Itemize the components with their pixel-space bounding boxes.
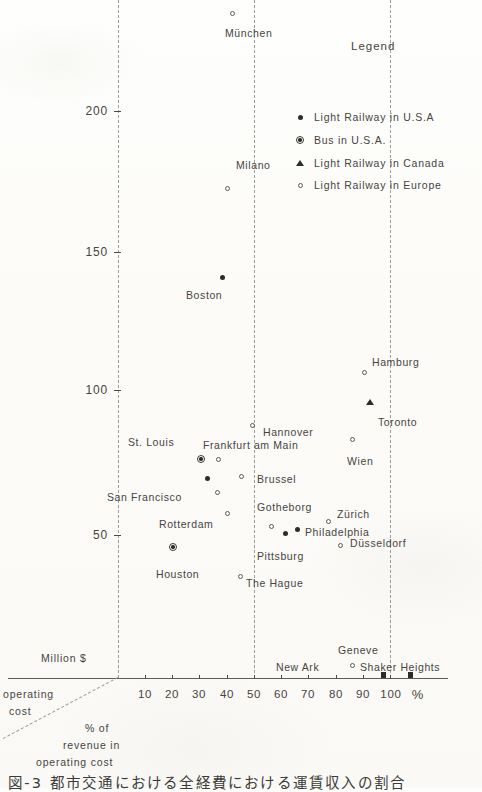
x-tick-label-70: 70 (294, 689, 322, 701)
point-label-hannover: Hannover (263, 427, 313, 438)
point-gotheborg[interactable] (215, 490, 220, 495)
point-milano[interactable] (225, 186, 230, 191)
x-axis-unit-symbol: % (408, 688, 428, 701)
point-dusseldorf[interactable] (338, 543, 343, 548)
y-tick-100 (114, 390, 121, 391)
bus-marker-icon (293, 136, 307, 144)
point-philadelphia-1[interactable] (283, 531, 288, 536)
point-label-the-hague: The Hague (246, 578, 303, 589)
x-tick-40 (227, 675, 228, 679)
y-tick-200 (114, 111, 121, 112)
gridline-0-percent (118, 0, 119, 678)
point-label-dusseldorf: Düsseldorf (350, 538, 406, 549)
open-circle-icon (293, 183, 307, 188)
legend-title: Legend (351, 40, 395, 52)
y-tick-label-50: 50 (78, 529, 108, 541)
x-tick-20 (172, 675, 173, 679)
gridline-100-percent (390, 0, 391, 678)
point-label-milano: Milano (236, 160, 271, 171)
x-tick-label-40: 40 (213, 689, 241, 701)
point-label-houston: Houston (156, 569, 199, 580)
point-label-brussel: Brussel (257, 474, 296, 485)
triangle-icon (293, 160, 307, 166)
filled-dot-icon (293, 115, 307, 120)
legend-label-light-railway-europe: Light Railway in Europe (314, 179, 442, 191)
x-axis-title-line1: % of (85, 723, 109, 734)
x-tick-100 (390, 675, 391, 679)
x-axis-title-line2: revenue in (63, 740, 120, 751)
point-label-gotheborg: Gotheborg (257, 502, 312, 513)
x-tick-label-60: 60 (267, 689, 295, 701)
legend-entry-light-railway-europe[interactable]: Light Railway in Europe (293, 179, 442, 191)
legend-entry-bus-usa[interactable]: Bus in U.S.A. (293, 134, 386, 146)
point-label-st-louis: St. Louis (128, 437, 174, 448)
point-label-san-francisco: San Francisco (107, 492, 182, 503)
x-tick-label-10: 10 (131, 689, 159, 701)
x-tick-60 (281, 675, 282, 679)
y-tick-label-100: 100 (78, 384, 108, 396)
figure-caption: 図-3 都市交通における全経費における運賃収入の割合 (8, 771, 406, 792)
legend-entry-light-railway-canada[interactable]: Light Railway in Canada (293, 157, 444, 169)
point-label-zurich: Zürich (337, 509, 370, 520)
x-tick-80 (336, 675, 337, 679)
point-label-wien: Wien (347, 456, 373, 467)
x-tick-label-100: 100 (376, 689, 406, 701)
x-tick-30 (199, 675, 200, 679)
point-label-philadelphia: Philadelphia (305, 527, 369, 538)
x-tick-70 (308, 675, 309, 679)
point-houston[interactable] (169, 543, 177, 551)
y-axis-title-line3: cost (9, 706, 31, 717)
point-boston[interactable] (220, 275, 225, 280)
point-label-toronto: Toronto (378, 417, 417, 428)
y-tick-50 (114, 535, 121, 536)
x-tick-label-50: 50 (240, 689, 268, 701)
point-label-boston: Boston (186, 290, 222, 301)
x-tick-50 (254, 675, 255, 679)
point-hannover[interactable] (250, 423, 255, 428)
point-label-shaker-heights: Shaker Heights (360, 662, 440, 673)
point-toronto[interactable] (366, 399, 374, 405)
x-tick-label-80: 80 (322, 689, 350, 701)
legend-label-light-railway-usa: Light Railway in U.S.A (314, 111, 434, 123)
point-st-louis[interactable] (197, 455, 205, 463)
legend-label-bus-usa: Bus in U.S.A. (314, 134, 386, 146)
y-tick-label-200: 200 (78, 105, 108, 117)
y-axis-title-line1: Million $ (41, 653, 87, 664)
y-axis-title-line2: operating (3, 689, 54, 700)
x-axis-title-line3: operating cost (36, 757, 113, 768)
point-rotterdam[interactable] (225, 511, 230, 516)
point-hamburg[interactable] (362, 370, 367, 375)
x-tick-10 (145, 675, 146, 679)
y-tick-label-150: 150 (78, 246, 108, 258)
x-tick-label-90: 90 (349, 689, 377, 701)
x-tick-label-30: 30 (185, 689, 213, 701)
point-philadelphia-2[interactable] (295, 527, 300, 532)
x-tick-label-20: 20 (158, 689, 186, 701)
point-label-pittsburg: Pittsburg (257, 551, 304, 562)
point-label-new-ark: New Ark (276, 662, 319, 673)
point-label-munchen: München (225, 28, 272, 39)
point-label-frankfurt: Frankfurt am Main (203, 440, 298, 451)
y-tick-150 (114, 252, 121, 253)
point-the-hague[interactable] (238, 574, 243, 579)
point-frankfurt[interactable] (216, 457, 221, 462)
point-munchen[interactable] (230, 11, 235, 16)
point-geneve[interactable] (350, 663, 355, 668)
point-label-geneve: Geneve (338, 645, 378, 656)
point-pittsburg[interactable] (269, 524, 274, 529)
legend-entry-light-railway-usa[interactable]: Light Railway in U.S.A (293, 111, 434, 123)
point-zurich[interactable] (326, 519, 331, 524)
point-wien[interactable] (350, 437, 355, 442)
point-label-rotterdam: Rotterdam (159, 519, 213, 530)
point-san-francisco[interactable] (205, 476, 210, 481)
point-brussel[interactable] (239, 474, 244, 479)
x-tick-90 (363, 675, 364, 679)
legend-label-light-railway-canada: Light Railway in Canada (314, 157, 444, 169)
x-axis-line (8, 678, 448, 679)
point-label-hamburg: Hamburg (372, 357, 419, 368)
